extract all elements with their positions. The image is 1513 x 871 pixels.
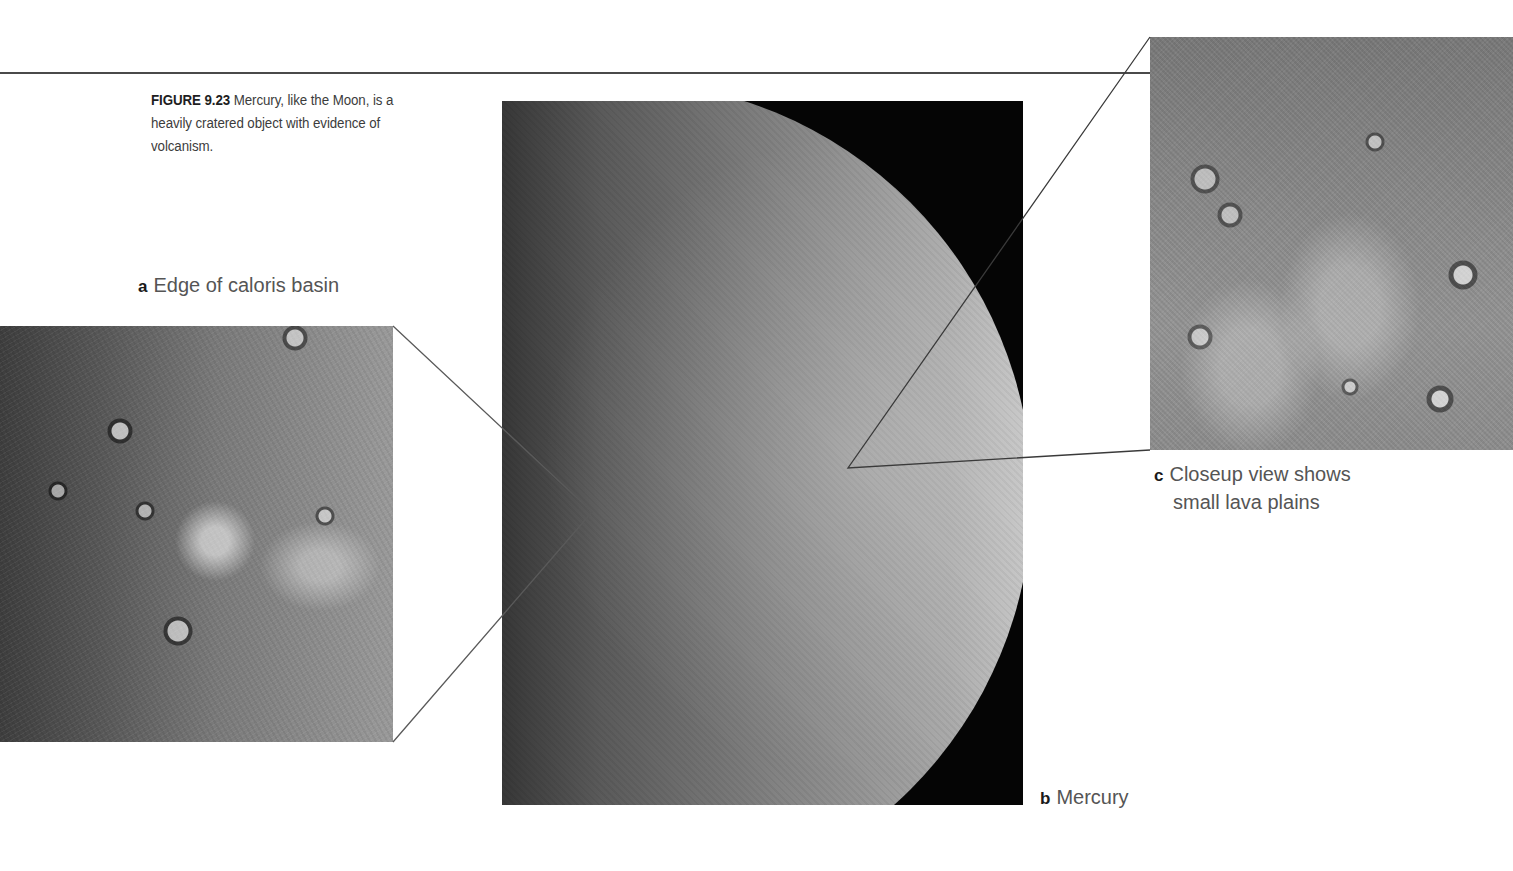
panel-c-image-lava-plains (1150, 37, 1513, 450)
mercury-disk (502, 101, 1023, 805)
panel-c-text-line1: Closeup view shows (1169, 463, 1350, 485)
panel-c-letter: c (1154, 466, 1163, 485)
figure-caption: FIGURE 9.23 Mercury, like the Moon, is a… (151, 88, 435, 157)
panel-b-image-mercury (502, 101, 1023, 805)
panel-a-text: Edge of caloris basin (153, 274, 339, 296)
panel-a-image-caloris-basin (0, 326, 393, 742)
panel-c-label: cCloseup view shows small lava plains (1154, 461, 1351, 515)
figure-number: FIGURE 9.23 (151, 91, 230, 108)
panel-a-letter: a (138, 277, 147, 296)
panel-c-text-line2: small lava plains (1154, 491, 1320, 513)
panel-a-label: aEdge of caloris basin (138, 272, 339, 300)
panel-b-label: bMercury (1040, 784, 1129, 812)
panel-b-text: Mercury (1056, 786, 1128, 808)
top-rule (0, 72, 1150, 74)
panel-b-letter: b (1040, 789, 1050, 808)
